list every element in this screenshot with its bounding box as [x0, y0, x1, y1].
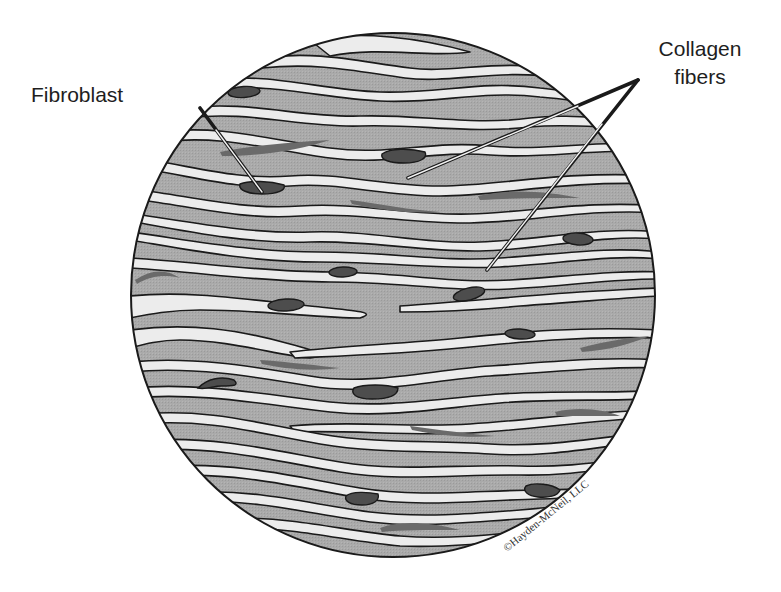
- tissue-diagram: ©Hayden-McNeil, LLC: [0, 0, 781, 592]
- tissue-field: [120, 25, 680, 565]
